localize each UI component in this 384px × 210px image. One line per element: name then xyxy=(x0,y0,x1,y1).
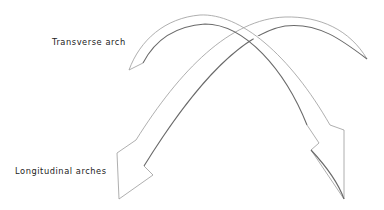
transverse-arch-label: Transverse arch xyxy=(52,37,126,47)
longitudinal-arches-label: Longitudinal arches xyxy=(15,166,107,176)
arches-illustration xyxy=(0,0,384,210)
arches-diagram: Transverse arch Longitudinal arches xyxy=(0,0,384,210)
